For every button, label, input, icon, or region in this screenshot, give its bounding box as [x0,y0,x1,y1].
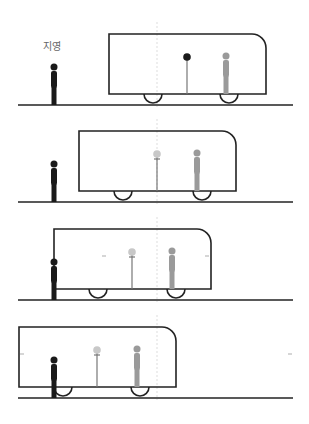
observer-figure [51,259,58,301]
observer-figure [51,357,58,399]
passenger-figure [223,53,230,95]
wheel-icon [114,191,132,200]
observer-figure [51,161,58,203]
passenger-figure [194,150,201,192]
pendulum-ball [93,346,101,354]
passenger-figure [134,346,141,388]
observer-figure [51,64,58,106]
wheel-icon [54,387,72,396]
pendulum-ball [183,53,191,61]
pendulum-ball [128,248,136,256]
wheel-icon [220,94,238,103]
observer-name-label: 지영 [43,38,61,53]
train-diagram [0,0,309,424]
wheel-icon [167,289,185,298]
wheel-icon [131,387,149,396]
wheel-icon [89,289,107,298]
wheel-icon [193,191,211,200]
wheel-icon [144,94,162,103]
pendulum-ball [153,150,161,158]
passenger-figure [169,248,176,290]
